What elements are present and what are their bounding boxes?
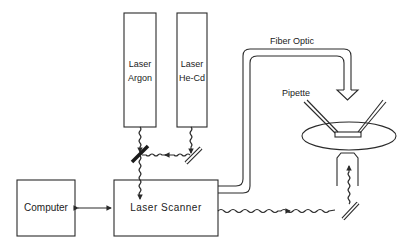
laser-argon-line1: Laser [124, 59, 156, 70]
pipette-right-a [360, 102, 386, 133]
laser-hecd-line1: Laser [177, 59, 207, 70]
mirror-objective [343, 203, 358, 219]
beam-argon [139, 127, 141, 152]
pipette-right-b [358, 100, 383, 132]
beam-to-objective-mirror [218, 210, 281, 213]
laser-argon-label: Laser Argon [124, 59, 156, 84]
beam-to-scanner [139, 156, 141, 199]
beam-to-objective [348, 166, 350, 204]
fiber-optic-inner [218, 56, 344, 193]
laser-argon-line2: Argon [124, 73, 156, 84]
fiber-optic-outer [218, 49, 351, 186]
computer-label: Computer [17, 202, 75, 213]
laser-hecd-label: Laser He-Cd [177, 59, 207, 84]
pipette-label: Pipette [278, 88, 314, 99]
mirror-hecd [186, 148, 201, 163]
fiber-optic-arrowhead [337, 90, 358, 100]
well [335, 132, 361, 137]
dish [302, 122, 396, 150]
laser-scanner-label: Laser Scanner [114, 202, 218, 213]
objective [337, 153, 358, 186]
fiber-optic-label: Fiber Optic [262, 36, 322, 47]
laser-hecd-line2: He-Cd [177, 73, 207, 84]
beam-hecd [190, 127, 192, 153]
